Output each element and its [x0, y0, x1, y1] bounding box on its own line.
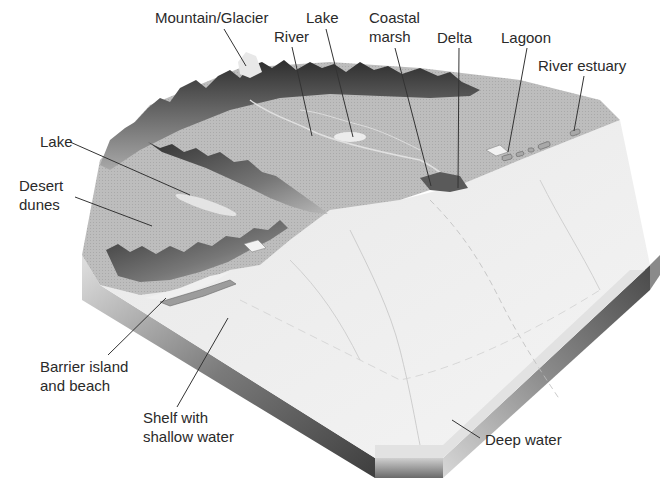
label-lake-left: Lake — [40, 132, 73, 151]
label-river: River — [274, 27, 309, 46]
label-lake-top: Lake — [306, 8, 339, 27]
barrier-island-segment — [528, 148, 534, 152]
label-coastal-marsh-line1: Coastal — [369, 8, 420, 27]
label-river-estuary: River estuary — [538, 56, 626, 75]
label-deep-water: Deep water — [485, 430, 562, 449]
label-barrier-island-line1: Barrier island — [40, 357, 128, 376]
label-shelf-line1: Shelf with — [143, 408, 208, 427]
block-front-face — [375, 458, 443, 478]
block-right-upper-face — [650, 255, 660, 290]
label-mountain-glacier: Mountain/Glacier — [155, 8, 268, 27]
label-coastal-marsh-line2: marsh — [369, 27, 411, 46]
label-shelf-line2: shallow water — [143, 427, 234, 446]
depositional-environments-diagram: Mountain/Glacier Lake Coastal marsh Rive… — [0, 0, 669, 492]
label-delta: Delta — [437, 28, 472, 47]
label-desert-dunes-line1: Desert — [19, 176, 63, 195]
leader-line-mountain-glacier — [224, 29, 246, 66]
label-desert-dunes-line2: dunes — [19, 195, 60, 214]
label-barrier-island-line2: and beach — [40, 376, 110, 395]
label-lagoon: Lagoon — [501, 28, 551, 47]
